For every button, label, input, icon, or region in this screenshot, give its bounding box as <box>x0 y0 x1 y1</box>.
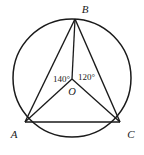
point-B-label: B <box>82 3 89 15</box>
point-O-label: O <box>68 86 76 97</box>
angle-AOB-label: 140° <box>53 74 71 84</box>
chord-BC-line <box>75 19 120 122</box>
radius-OB-line <box>72 19 75 79</box>
geometry-canvas: 140° 120° O B A C <box>0 0 144 155</box>
angle-BOC-label: 120° <box>78 72 96 82</box>
radius-OC-line <box>72 79 120 122</box>
point-C-label: C <box>127 128 135 140</box>
radius-OA-line <box>25 79 72 122</box>
point-A-label: A <box>10 128 18 140</box>
geometry-figure: 140° 120° O B A C <box>0 0 144 155</box>
